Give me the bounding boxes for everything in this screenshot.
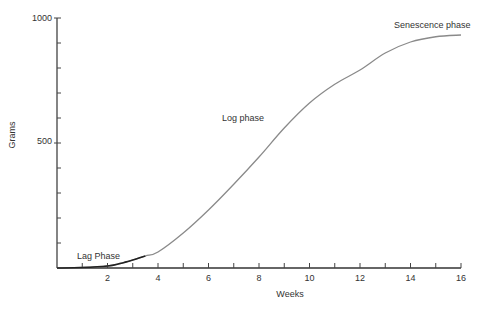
x-tick-label-6: 6 (206, 273, 211, 283)
y-axis (54, 18, 61, 268)
senescence-phase-label: Senescence phase (394, 20, 471, 30)
x-tick-label-16: 16 (456, 273, 466, 283)
y-tick-label-1000: 1000 (32, 13, 52, 23)
lag-phase-label: Lag Phase (77, 251, 120, 261)
y-axis-title: Grams (7, 121, 17, 149)
x-tick-label-8: 8 (256, 273, 261, 283)
x-tick-label-14: 14 (405, 273, 415, 283)
x-axis-title: Weeks (276, 289, 304, 299)
x-axis: 246810121416 (57, 263, 466, 283)
x-tick-label-10: 10 (304, 273, 314, 283)
log-phase-label: Log phase (222, 113, 264, 123)
y-tick-label-500: 500 (37, 136, 52, 146)
growth-curve (57, 35, 461, 268)
x-tick-label-2: 2 (105, 273, 110, 283)
x-tick-label-12: 12 (355, 273, 365, 283)
growth-chart: 246810121416 1000 500 Grams Weeks Lag Ph… (0, 0, 478, 309)
x-tick-label-4: 4 (155, 273, 160, 283)
